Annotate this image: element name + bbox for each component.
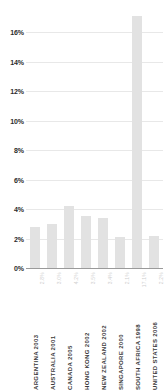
y-axis-tick-label: 0%	[14, 265, 24, 272]
bar-slot	[128, 10, 145, 268]
x-axis-category-label: SOUTH AFRICA 1998	[135, 324, 141, 390]
bar[interactable]	[30, 227, 40, 268]
category-slot: AUSTRALIA 2001	[44, 302, 61, 390]
value-slot: 2.2%	[145, 270, 162, 300]
bar-slot	[78, 10, 95, 268]
bar-slot	[27, 10, 44, 268]
bar[interactable]	[98, 218, 108, 268]
y-axis: 0%2%4%6%8%10%12%14%16%	[0, 10, 24, 268]
value-label-row: 2.8%3.0%4.2%3.5%3.4%2.1%17.1%2.2%	[26, 270, 163, 300]
plot-area	[26, 10, 163, 268]
y-axis-tick-label: 4%	[14, 206, 24, 213]
value-slot: 3.4%	[95, 270, 112, 300]
y-axis-tick-label: 16%	[10, 29, 24, 36]
bar[interactable]	[47, 224, 57, 268]
category-slot: SOUTH AFRICA 1998	[128, 302, 145, 390]
x-axis-category-label: NEW ZEALAND 2002	[101, 325, 107, 390]
value-slot: 3.5%	[78, 270, 95, 300]
bar-slot	[44, 10, 61, 268]
bar-slot	[145, 10, 162, 268]
bar[interactable]	[132, 16, 142, 268]
category-label-row: ARGENTINA 2003AUSTRALIA 2001CANADA 2005H…	[26, 302, 163, 390]
y-axis-tick-label: 2%	[14, 235, 24, 242]
category-slot: UNITED STATES 2006	[145, 302, 162, 390]
bar[interactable]	[149, 236, 159, 268]
category-slot: ARGENTINA 2003	[27, 302, 44, 390]
category-slot: CANADA 2005	[61, 302, 78, 390]
y-axis-tick-label: 10%	[10, 117, 24, 124]
category-slot: SINGAPORE 2000	[111, 302, 128, 390]
axis-baseline	[26, 268, 163, 269]
value-slot: 3.0%	[44, 270, 61, 300]
bar-value-label: 2.2%	[158, 272, 164, 284]
value-slot: 4.2%	[61, 270, 78, 300]
bar[interactable]	[115, 237, 125, 268]
value-slot: 17.1%	[128, 270, 145, 300]
x-axis-category-label: AUSTRALIA 2001	[50, 336, 56, 390]
category-slot: NEW ZEALAND 2002	[95, 302, 112, 390]
x-axis-category-label: SINGAPORE 2000	[118, 334, 124, 390]
bar-series	[26, 10, 163, 268]
x-axis-category-label: CANADA 2005	[67, 345, 73, 390]
x-axis-category-label: ARGENTINA 2003	[33, 335, 39, 390]
y-axis-tick-label: 6%	[14, 176, 24, 183]
bar-chart: 0%2%4%6%8%10%12%14%16% 2.8%3.0%4.2%3.5%3…	[0, 0, 167, 390]
value-slot: 2.1%	[111, 270, 128, 300]
value-slot: 2.8%	[27, 270, 44, 300]
category-slot: HONG KONG 2002	[78, 302, 95, 390]
bar[interactable]	[64, 206, 74, 268]
bar-slot	[111, 10, 128, 268]
y-axis-tick-label: 14%	[10, 58, 24, 65]
bar-slot	[95, 10, 112, 268]
y-axis-tick-label: 12%	[10, 88, 24, 95]
y-axis-tick-label: 8%	[14, 147, 24, 154]
bar-slot	[61, 10, 78, 268]
x-axis-category-label: UNITED STATES 2006	[152, 322, 158, 390]
x-axis-category-label: HONG KONG 2002	[84, 332, 90, 390]
bar[interactable]	[81, 216, 91, 268]
